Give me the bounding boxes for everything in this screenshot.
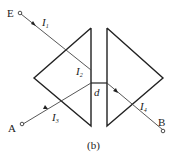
label-d: d xyxy=(94,86,100,98)
prism-diagram: E A B I1 I2 I3 I4 d (b) xyxy=(0,0,178,156)
arrow-icon xyxy=(31,21,36,26)
right-prism xyxy=(107,28,163,126)
figure-caption: (b) xyxy=(87,139,100,152)
ray-e xyxy=(21,14,91,70)
arrow-icon xyxy=(43,105,48,109)
label-a: A xyxy=(8,122,16,134)
label-e: E xyxy=(7,7,14,19)
terminal-e xyxy=(18,11,22,15)
terminal-b xyxy=(161,129,165,133)
label-i2: I2 xyxy=(75,65,83,78)
label-i4: I4 xyxy=(139,100,147,113)
label-i3: I3 xyxy=(51,111,59,124)
label-b: B xyxy=(158,116,165,128)
terminal-a xyxy=(20,122,24,126)
label-i1: I1 xyxy=(41,16,49,29)
